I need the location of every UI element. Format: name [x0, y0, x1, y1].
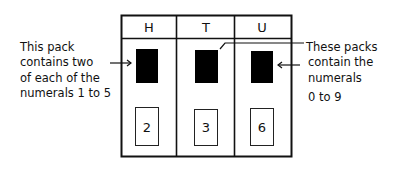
pack-tens[interactable]	[195, 50, 218, 83]
right-annotation-line-4: 0 to 9	[308, 90, 342, 104]
column-header-tens: T	[201, 20, 210, 35]
pack-hundreds[interactable]	[136, 49, 158, 83]
card-value-tens: 3	[202, 120, 210, 135]
right-annotation-line-3: numerals	[308, 71, 362, 85]
left-annotation-line-4: numerals 1 to 5	[20, 86, 111, 100]
right-annotation-line-1: These packs	[305, 40, 377, 54]
card-value-units: 6	[258, 120, 266, 135]
left-annotation-line-1: This pack	[19, 40, 75, 54]
column-header-units: U	[257, 20, 267, 35]
arrow-left-icon	[278, 62, 300, 68]
column-header-hundreds: H	[144, 20, 154, 35]
place-value-diagram: H T U 2 3 6 This pack contains two of ea…	[0, 0, 405, 169]
left-annotation-line-3: of each of the	[20, 71, 100, 85]
card-value-hundreds: 2	[143, 120, 151, 135]
pack-units[interactable]	[251, 51, 273, 83]
right-annotation-line-2: contain the	[308, 55, 373, 69]
left-annotation-line-2: contains two	[20, 55, 93, 69]
